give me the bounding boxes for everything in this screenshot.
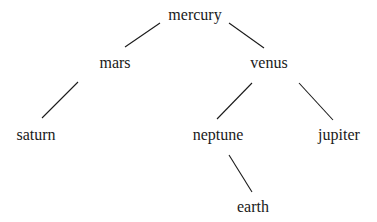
edge-mars-saturn — [42, 82, 78, 118]
edge-neptune-earth — [229, 155, 252, 192]
node-mercury: mercury — [168, 6, 221, 24]
edge-mercury-venus — [229, 23, 264, 48]
nodes: mercury mars venus saturn neptune jupite… — [16, 6, 360, 215]
node-mars: mars — [99, 54, 130, 71]
node-jupiter: jupiter — [317, 126, 360, 144]
edge-venus-jupiter — [299, 83, 333, 120]
node-earth: earth — [237, 198, 269, 215]
tree-diagram: mercury mars venus saturn neptune jupite… — [0, 0, 377, 222]
node-venus: venus — [250, 54, 287, 71]
node-saturn: saturn — [16, 126, 55, 143]
node-neptune: neptune — [193, 126, 244, 144]
edges — [42, 23, 333, 192]
edge-venus-neptune — [217, 83, 252, 119]
edge-mercury-mars — [125, 23, 160, 47]
